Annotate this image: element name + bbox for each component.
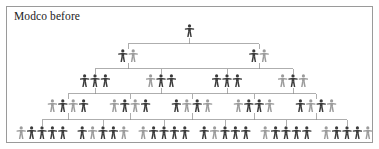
person-figure-icon xyxy=(233,74,242,87)
person-figure-icon xyxy=(210,126,219,139)
person-figure-icon xyxy=(172,99,181,112)
org-node xyxy=(118,49,138,62)
org-hierarchy-tree xyxy=(6,6,373,143)
person-figure-icon xyxy=(292,126,301,139)
person-figure-icon xyxy=(141,99,150,112)
person-figure-icon xyxy=(131,99,140,112)
tree-svg xyxy=(6,6,373,143)
person-figure-icon xyxy=(101,74,110,87)
person-figure-icon xyxy=(17,126,26,139)
figure-container: Modco before xyxy=(0,0,379,149)
person-figure-icon xyxy=(317,99,326,112)
person-figure-icon xyxy=(167,74,176,87)
person-figure-icon xyxy=(265,99,274,112)
person-figure-icon xyxy=(109,126,118,139)
org-node xyxy=(17,126,68,139)
org-node xyxy=(322,126,373,139)
person-figure-icon xyxy=(120,99,129,112)
person-figure-icon xyxy=(288,74,297,87)
person-figure-icon xyxy=(203,99,212,112)
person-figure-icon xyxy=(193,99,202,112)
person-figure-icon xyxy=(48,99,57,112)
person-figure-icon xyxy=(302,126,311,139)
org-level-5 xyxy=(17,126,373,139)
person-figure-icon xyxy=(78,126,87,139)
person-figure-icon xyxy=(261,126,270,139)
person-figure-icon xyxy=(241,126,250,139)
person-figure-icon xyxy=(234,99,243,112)
org-level-4 xyxy=(48,99,336,112)
org-node xyxy=(80,74,110,87)
org-node xyxy=(212,74,242,87)
org-node xyxy=(172,99,212,112)
person-figure-icon xyxy=(244,99,253,112)
person-figure-icon xyxy=(58,99,67,112)
person-figure-icon xyxy=(342,126,351,139)
person-figure-icon xyxy=(129,49,138,62)
org-level-2 xyxy=(118,49,269,62)
person-figure-icon xyxy=(200,126,209,139)
org-node xyxy=(48,99,88,112)
person-figure-icon xyxy=(182,99,191,112)
person-figure-icon xyxy=(299,74,308,87)
person-figure-icon xyxy=(185,24,194,37)
person-figure-icon xyxy=(37,126,46,139)
person-figure-icon xyxy=(306,99,315,112)
person-figure-icon xyxy=(139,126,148,139)
person-figure-icon xyxy=(255,99,264,112)
person-figure-icon xyxy=(212,74,221,87)
person-figure-icon xyxy=(170,126,179,139)
person-figure-icon xyxy=(69,99,78,112)
person-figure-icon xyxy=(90,74,99,87)
org-node xyxy=(249,49,269,62)
person-figure-icon xyxy=(156,74,165,87)
org-node xyxy=(78,126,129,139)
org-node xyxy=(146,74,176,87)
person-figure-icon xyxy=(271,126,280,139)
org-node xyxy=(278,74,308,87)
person-figure-icon xyxy=(149,126,158,139)
org-node xyxy=(296,99,336,112)
person-figure-icon xyxy=(98,126,107,139)
person-figure-icon xyxy=(27,126,36,139)
person-figure-icon xyxy=(222,74,231,87)
person-figure-icon xyxy=(110,99,119,112)
person-figure-icon xyxy=(146,74,155,87)
person-figure-icon xyxy=(281,126,290,139)
person-figure-icon xyxy=(58,126,67,139)
person-figure-icon xyxy=(220,126,229,139)
connector-lines xyxy=(42,38,347,126)
person-figure-icon xyxy=(118,49,127,62)
person-figure-icon xyxy=(88,126,97,139)
org-node xyxy=(200,126,251,139)
person-figure-icon xyxy=(48,126,57,139)
org-node xyxy=(261,126,312,139)
org-node xyxy=(185,24,194,37)
person-figure-icon xyxy=(353,126,362,139)
person-figure-icon xyxy=(363,126,372,139)
person-figure-icon xyxy=(332,126,341,139)
org-node xyxy=(234,99,274,112)
person-figure-icon xyxy=(119,126,128,139)
person-figure-icon xyxy=(296,99,305,112)
org-level-1 xyxy=(185,24,194,37)
person-figure-icon xyxy=(79,99,88,112)
person-figure-icon xyxy=(249,49,258,62)
org-level-3 xyxy=(80,74,308,87)
person-figure-icon xyxy=(80,74,89,87)
org-node xyxy=(110,99,150,112)
person-figure-icon xyxy=(278,74,287,87)
person-figure-icon xyxy=(180,126,189,139)
person-figure-icon xyxy=(327,99,336,112)
person-figure-icon xyxy=(159,126,168,139)
org-node xyxy=(139,126,190,139)
person-figure-icon xyxy=(260,49,269,62)
person-figure-icon xyxy=(322,126,331,139)
person-figure-icon xyxy=(231,126,240,139)
